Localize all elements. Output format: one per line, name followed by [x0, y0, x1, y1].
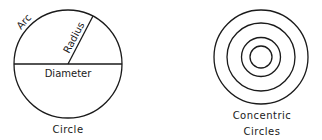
concentric-circle-third: [242, 38, 281, 77]
concentric-circle-inner: [250, 46, 272, 68]
concentric-circles-figure: Concentric Circles: [214, 10, 308, 137]
concentric-caption-line2: Circles: [244, 126, 281, 137]
circle-figure: Arc Radius Diameter Circle: [14, 10, 122, 135]
circle-caption: Circle: [52, 124, 83, 135]
concentric-circle-second: [227, 23, 295, 91]
geometry-diagram: Arc Radius Diameter Circle Concentric Ci…: [0, 0, 322, 140]
concentric-caption-line1: Concentric: [233, 110, 292, 121]
diameter-label: Diameter: [45, 68, 93, 79]
arc-label: Arc: [14, 12, 33, 31]
radius-label: Radius: [61, 20, 86, 55]
concentric-circle-outer: [214, 10, 308, 104]
